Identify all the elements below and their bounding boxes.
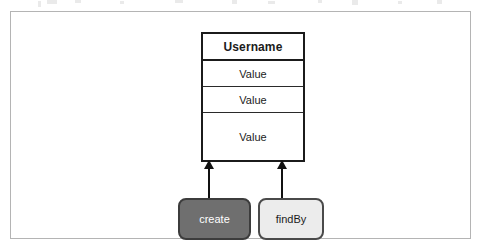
scan-artifact-strip [0,0,481,9]
method-box-findby: findBy [258,198,324,240]
figure-page: Username Value Value Value create findBy [0,0,481,247]
arrow-shaft [281,167,283,198]
arrow-shaft [208,167,210,198]
entity-table: Username Value Value Value [201,32,305,162]
entity-value-row: Value [203,87,303,113]
method-box-create: create [178,198,251,240]
entity-value-row: Value [203,61,303,87]
figure-frame: Username Value Value Value create findBy [10,11,471,239]
entity-value-row: Value [203,113,303,160]
arrow-up-findby [277,160,287,198]
entity-header-cell: Username [203,34,303,61]
arrow-up-create [204,160,214,198]
